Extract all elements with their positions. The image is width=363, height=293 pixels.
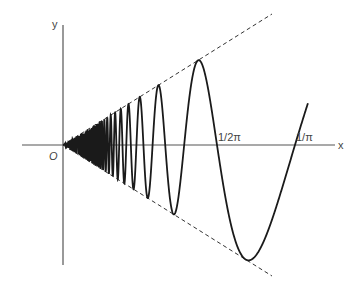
oscillating-curve — [64, 60, 308, 260]
origin-label: O — [49, 150, 58, 162]
function-graph: x y O 1/2π 1/π — [0, 0, 363, 293]
x-axis-label: x — [338, 139, 344, 151]
tick-label-half-pi: 1/2π — [218, 131, 241, 143]
tick-label-pi: 1/π — [296, 131, 313, 143]
y-axis-label: y — [52, 18, 58, 30]
upper-envelope-line — [63, 14, 272, 145]
